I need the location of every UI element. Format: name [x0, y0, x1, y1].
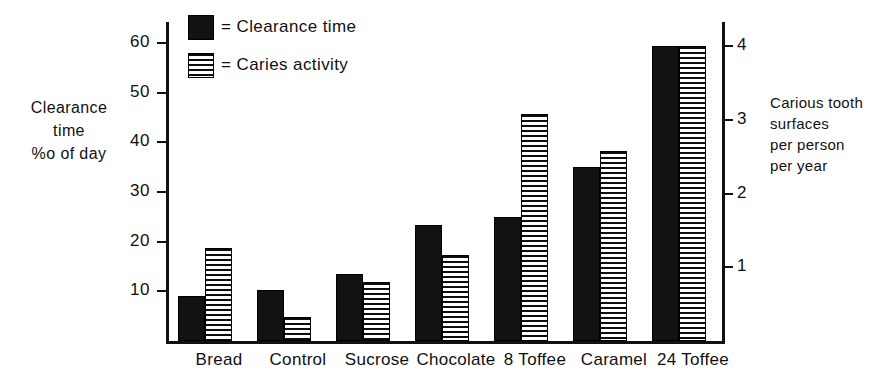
- bar-caries-activity: [521, 114, 548, 341]
- bar-clearance-time: [415, 225, 442, 341]
- right-axis-tick-label-text: 2: [737, 183, 767, 203]
- right-axis-tick-mark: [724, 45, 733, 47]
- bar-caries-activity: [363, 282, 390, 341]
- right-axis-tick-mark: [724, 119, 733, 121]
- left-axis-tick-label-text: 60: [108, 32, 150, 52]
- right-axis-tick-label-text: 4: [737, 35, 767, 55]
- right-axis-line: [722, 22, 725, 343]
- bar-caries-activity: [679, 46, 706, 341]
- left-axis-tick-mark: [157, 92, 166, 94]
- right-axis-tick-label-text: 3: [737, 109, 767, 129]
- left-axis-tick-label-text: 30: [108, 181, 150, 201]
- left-axis-tick-label-text: 50: [108, 82, 150, 102]
- bar-clearance-time: [336, 274, 363, 341]
- left-axis-tick-label-text: 10: [108, 280, 150, 300]
- left-axis-tick-label: 60: [108, 32, 150, 52]
- left-axis-tick-label: 10: [108, 280, 150, 300]
- left-axis-tick-label-text: 40: [108, 131, 150, 151]
- right-axis-tick-mark: [724, 266, 733, 268]
- bar-clearance-time: [178, 296, 205, 341]
- category-label: 24 Toffee: [639, 350, 747, 370]
- bar-clearance-time: [652, 46, 679, 341]
- left-axis-tick-label: 20: [108, 231, 150, 251]
- bar-caries-activity: [600, 151, 627, 341]
- legend-swatch-clearance-time-icon: [188, 15, 214, 40]
- bar-caries-activity: [442, 255, 469, 341]
- right-axis-tick-label-text: 1: [737, 256, 767, 276]
- bar-clearance-time: [494, 217, 521, 341]
- left-axis-tick-label: 40: [108, 131, 150, 151]
- bar-caries-activity: [205, 248, 232, 341]
- left-axis-tick-label: 30: [108, 181, 150, 201]
- left-axis-tick-label: 50: [108, 82, 150, 102]
- right-axis-tick-label: 3: [737, 109, 767, 129]
- right-axis-tick-label: 1: [737, 256, 767, 276]
- legend-swatch-caries-activity-icon: [188, 53, 214, 78]
- left-axis-tick-label-text: 20: [108, 231, 150, 251]
- left-axis-tick-mark: [157, 42, 166, 44]
- legend-entry-clearance-time: = Clearance time: [188, 12, 356, 42]
- legend-label-clearance-time: = Clearance time: [221, 17, 356, 37]
- plot-area: 102030405060 1234 BreadControlSucroseCho…: [0, 0, 890, 385]
- legend: = Clearance time = Caries activity: [188, 12, 356, 88]
- left-axis-tick-mark: [157, 141, 166, 143]
- bar-clearance-time: [257, 290, 284, 341]
- legend-entry-caries-activity: = Caries activity: [188, 50, 356, 80]
- right-axis-tick-label: 2: [737, 183, 767, 203]
- left-axis-tick-mark: [157, 290, 166, 292]
- bar-clearance-time: [573, 167, 600, 341]
- x-axis-line: [166, 341, 725, 344]
- right-axis-tick-label: 4: [737, 35, 767, 55]
- legend-label-caries-activity: = Caries activity: [221, 55, 348, 75]
- bar-chart-figure: Clearance time %o of day Carious tooth s…: [0, 0, 890, 385]
- left-axis-tick-mark: [157, 241, 166, 243]
- bar-caries-activity: [284, 317, 311, 341]
- left-axis-tick-mark: [157, 191, 166, 193]
- left-axis-line: [166, 22, 169, 343]
- right-axis-tick-mark: [724, 193, 733, 195]
